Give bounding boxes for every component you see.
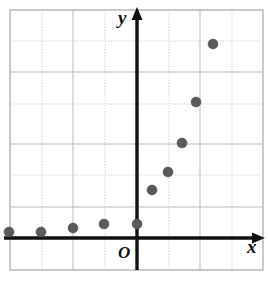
data-point — [99, 219, 109, 229]
data-point — [68, 223, 78, 233]
data-point — [147, 185, 157, 195]
data-point — [177, 138, 187, 148]
data-point — [208, 39, 218, 49]
data-point — [36, 227, 46, 237]
x-axis-label: x — [246, 236, 257, 257]
origin-label: O — [118, 243, 130, 262]
y-axis-label: y — [116, 7, 127, 28]
data-point — [191, 97, 201, 107]
data-point — [132, 219, 142, 229]
plot-background — [0, 0, 268, 283]
scatter-plot-figure: y x O — [0, 0, 268, 283]
coordinate-grid-svg: y x O — [0, 0, 268, 283]
data-point — [4, 227, 14, 237]
data-point — [163, 167, 173, 177]
